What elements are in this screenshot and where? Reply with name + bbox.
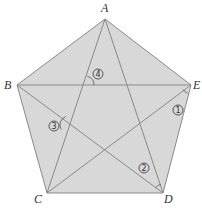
svg-text:1: 1 (175, 106, 180, 115)
pentagon-fill (17, 19, 191, 193)
vertex-label-c: C (34, 192, 43, 206)
vertex-label-e: E (192, 78, 201, 92)
vertex-label-d: D (163, 192, 173, 206)
vertex-label-a: A (100, 1, 109, 15)
svg-text:2: 2 (141, 164, 146, 173)
pentagram-diagram: A B C D E 1 2 3 4 (0, 0, 202, 208)
vertex-label-b: B (4, 78, 12, 92)
svg-text:3: 3 (51, 122, 56, 131)
svg-text:4: 4 (95, 70, 100, 79)
